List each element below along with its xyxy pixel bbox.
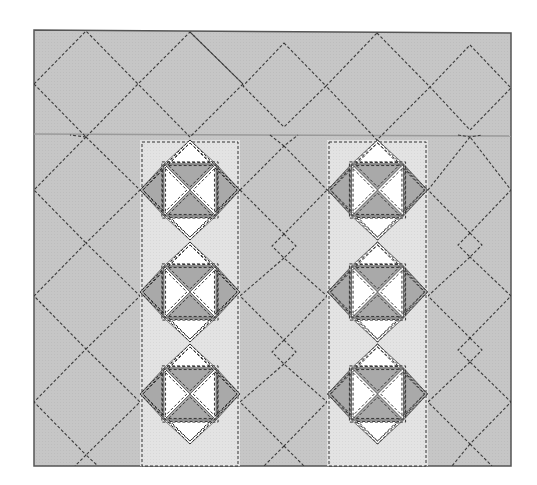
- quilt-diagram: [0, 0, 537, 485]
- quilt-background: [34, 30, 511, 466]
